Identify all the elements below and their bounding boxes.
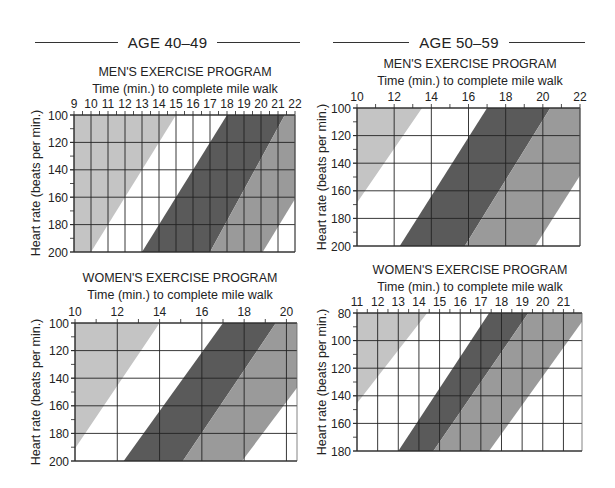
x-tick-label: 21 bbox=[557, 295, 571, 309]
x-tick-label: 20 bbox=[536, 295, 550, 309]
x-tick-label: 10 bbox=[350, 90, 364, 104]
x-tick-label: 11 bbox=[351, 295, 364, 309]
y-tick-label: 120 bbox=[331, 129, 351, 143]
x-tick-label: 19 bbox=[515, 295, 529, 309]
x-tick-label: 14 bbox=[425, 90, 439, 104]
bands bbox=[327, 108, 615, 246]
y-tick-label: 80 bbox=[338, 307, 352, 321]
y-tick-label: 200 bbox=[331, 240, 351, 254]
x-tick-label: 12 bbox=[118, 97, 132, 111]
x-tick-label: 15 bbox=[433, 295, 447, 309]
y-tick-label: 180 bbox=[331, 445, 351, 459]
x-tick-label: 12 bbox=[387, 90, 401, 104]
y-tick-label: 120 bbox=[49, 344, 69, 358]
y-tick-label: 160 bbox=[331, 184, 351, 198]
y-axis-title: Heart rate (beats per min.) bbox=[29, 110, 43, 257]
y-tick-label: 140 bbox=[331, 157, 351, 171]
y-tick-label: 120 bbox=[331, 362, 351, 376]
bands bbox=[320, 313, 588, 451]
x-tick-label: 11 bbox=[102, 97, 115, 111]
x-tick-label: 12 bbox=[371, 295, 385, 309]
x-tick-label: 12 bbox=[111, 305, 125, 319]
y-tick-label: 200 bbox=[49, 455, 69, 469]
charts-canvas: 9101112131415161718192021221001201401601… bbox=[0, 0, 615, 488]
x-tick-label: 20 bbox=[536, 90, 550, 104]
y-tick-label: 180 bbox=[48, 218, 68, 232]
bands bbox=[67, 323, 346, 461]
x-tick-label: 21 bbox=[271, 97, 285, 111]
x-tick-label: 10 bbox=[68, 305, 82, 319]
x-tick-label: 17 bbox=[474, 295, 488, 309]
y-tick-label: 120 bbox=[48, 136, 68, 150]
x-tick-label: 22 bbox=[288, 97, 302, 111]
y-tick-label: 100 bbox=[49, 317, 69, 331]
x-tick-label: 18 bbox=[237, 305, 251, 319]
y-tick-label: 160 bbox=[48, 191, 68, 205]
x-tick-label: 13 bbox=[135, 97, 149, 111]
x-tick-label: 16 bbox=[462, 90, 476, 104]
chart-men-40-49: 9101112131415161718192021221001201401601… bbox=[29, 97, 346, 260]
x-tick-label: 18 bbox=[220, 97, 234, 111]
y-axis-title: Heart rate (beats per min.) bbox=[315, 104, 329, 251]
x-tick-label: 22 bbox=[573, 90, 587, 104]
x-tick-label: 14 bbox=[153, 305, 167, 319]
chart-women-40-49: 101214161820100120140160180200Heart rate… bbox=[29, 305, 346, 469]
chart-women-50-59: 111213141516171819202180100120140160180H… bbox=[315, 295, 588, 459]
bands bbox=[69, 115, 346, 252]
x-tick-label: 15 bbox=[169, 97, 183, 111]
x-tick-label: 10 bbox=[84, 97, 98, 111]
y-axis-title: Heart rate (beats per min.) bbox=[29, 319, 43, 466]
x-tick-label: 16 bbox=[195, 305, 209, 319]
y-tick-label: 140 bbox=[48, 163, 68, 177]
x-tick-label: 16 bbox=[186, 97, 200, 111]
y-tick-label: 140 bbox=[331, 389, 351, 403]
x-tick-label: 17 bbox=[203, 97, 217, 111]
y-tick-label: 100 bbox=[48, 109, 68, 123]
y-tick-label: 180 bbox=[49, 427, 69, 441]
x-tick-label: 19 bbox=[237, 97, 251, 111]
x-tick-label: 20 bbox=[280, 305, 294, 319]
x-tick-label: 18 bbox=[495, 295, 509, 309]
x-tick-label: 18 bbox=[499, 90, 513, 104]
y-axis-title: Heart rate (beats per min.) bbox=[315, 309, 329, 456]
y-tick-label: 160 bbox=[49, 399, 69, 413]
y-tick-label: 180 bbox=[331, 212, 351, 226]
x-tick-label: 14 bbox=[412, 295, 426, 309]
y-tick-label: 100 bbox=[331, 102, 351, 116]
x-tick-label: 13 bbox=[392, 295, 406, 309]
x-tick-label: 20 bbox=[254, 97, 268, 111]
y-tick-label: 100 bbox=[331, 334, 351, 348]
y-tick-label: 200 bbox=[48, 246, 68, 260]
chart-men-50-59: 10121416182022100120140160180200Heart ra… bbox=[315, 90, 615, 254]
x-tick-label: 16 bbox=[454, 295, 468, 309]
x-tick-label: 9 bbox=[71, 97, 78, 111]
x-tick-label: 14 bbox=[152, 97, 166, 111]
y-tick-label: 140 bbox=[49, 372, 69, 386]
y-tick-label: 160 bbox=[331, 417, 351, 431]
